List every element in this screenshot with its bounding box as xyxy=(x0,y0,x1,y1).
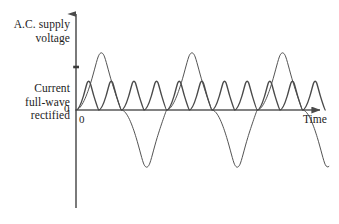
rectified-current-label: Current full-wave rectified xyxy=(0,82,70,123)
waveform-figure: A.C. supply voltage Current full-wave re… xyxy=(0,0,339,224)
time-axis-label: Time xyxy=(303,114,327,126)
ac-supply-voltage-label-line1: A.C. supply xyxy=(0,18,70,32)
ac-supply-voltage-label: A.C. supply voltage xyxy=(0,18,70,45)
y-axis-origin-label: 0 xyxy=(64,103,70,114)
rectified-current-label-line3: rectified xyxy=(0,109,70,123)
x-axis-origin-label: 0 xyxy=(79,114,85,125)
ac-supply-voltage-label-line2: voltage xyxy=(0,32,70,46)
rectified-current-label-line2: full-wave xyxy=(0,96,70,110)
rectified-current-label-line1: Current xyxy=(0,82,70,96)
rectified-current-curve xyxy=(76,81,325,110)
